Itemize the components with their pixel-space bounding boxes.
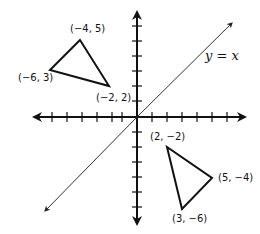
- x-axis: [34, 112, 245, 122]
- vertex-label-a3: (−2, 2): [96, 92, 131, 103]
- vertex-label-a2: (−6, 3): [18, 72, 53, 83]
- line-label: y = x: [204, 48, 240, 63]
- vertex-label-b3: (3, −6): [172, 213, 207, 224]
- triangle-b: (2, −2) (5, −4) (3, −6): [150, 131, 253, 224]
- coordinate-plane: y = x (−4, 5) (−6, 3) (−2, 2) (2, −2) (5…: [0, 0, 260, 234]
- vertex-label-b1: (2, −2): [150, 131, 185, 142]
- vertex-label-a1: (−4, 5): [70, 23, 105, 34]
- triangle-a: (−4, 5) (−6, 3) (−2, 2): [18, 23, 131, 103]
- vertex-label-b2: (5, −4): [218, 172, 253, 183]
